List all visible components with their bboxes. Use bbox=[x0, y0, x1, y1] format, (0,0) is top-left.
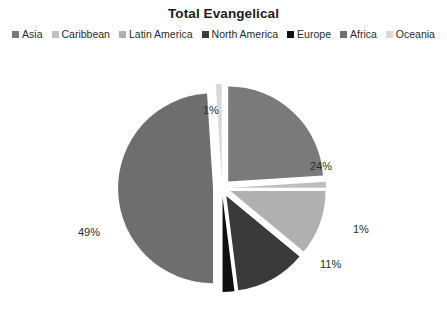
legend-swatch-north-america bbox=[202, 31, 209, 38]
pie-slice-africa[interactable] bbox=[118, 93, 213, 283]
legend-label-asia: Asia bbox=[22, 28, 42, 40]
legend-swatch-asia bbox=[12, 31, 19, 38]
legend-label-oceania: Oceania bbox=[396, 28, 435, 40]
data-label-oceania: 1% bbox=[203, 104, 219, 117]
data-label-africa: 49% bbox=[78, 226, 100, 239]
legend-label-caribbean: Caribbean bbox=[62, 28, 110, 40]
legend-swatch-africa bbox=[340, 31, 347, 38]
legend-swatch-oceania bbox=[386, 31, 393, 38]
data-label-caribbean: 1% bbox=[353, 223, 369, 236]
pie-slice-asia[interactable] bbox=[228, 86, 323, 181]
legend-swatch-caribbean bbox=[52, 31, 59, 38]
pie-slice-caribbean[interactable] bbox=[231, 182, 326, 188]
legend-item-africa[interactable]: Africa bbox=[340, 28, 377, 40]
legend-item-oceania[interactable]: Oceania bbox=[386, 28, 435, 40]
chart-legend: Asia Caribbean Latin America North Ameri… bbox=[0, 28, 447, 40]
legend-label-europe: Europe bbox=[297, 28, 331, 40]
legend-swatch-latin-america bbox=[119, 31, 126, 38]
pie-plot-area: 24% 1% 11% 12% 2% 49% 1% bbox=[0, 46, 447, 318]
legend-item-europe[interactable]: Europe bbox=[287, 28, 331, 40]
legend-swatch-europe bbox=[287, 31, 294, 38]
pie-svg bbox=[0, 46, 447, 318]
chart-title: Total Evangelical bbox=[0, 6, 447, 22]
legend-label-latin-america: Latin America bbox=[129, 28, 193, 40]
legend-label-north-america: North America bbox=[212, 28, 279, 40]
pie-chart-figure: Total Evangelical Asia Caribbean Latin A… bbox=[0, 0, 447, 318]
legend-item-caribbean[interactable]: Caribbean bbox=[52, 28, 110, 40]
data-label-asia: 24% bbox=[310, 160, 332, 173]
legend-item-north-america[interactable]: North America bbox=[202, 28, 279, 40]
legend-label-africa: Africa bbox=[350, 28, 377, 40]
pie-slice-oceania[interactable] bbox=[216, 84, 222, 179]
data-label-latin-america: 11% bbox=[320, 258, 341, 271]
legend-item-asia[interactable]: Asia bbox=[12, 28, 42, 40]
legend-item-latin-america[interactable]: Latin America bbox=[119, 28, 193, 40]
